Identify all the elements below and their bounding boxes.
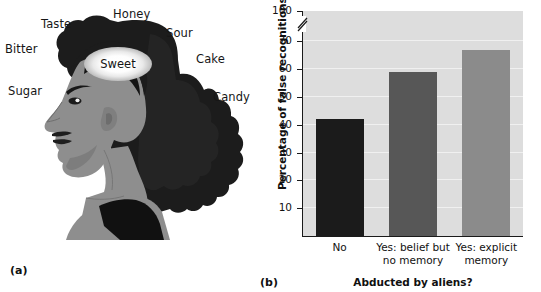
word-label-cake: Cake — [196, 52, 225, 66]
chart-y-axis-label: Percentage of false recognitions — [276, 30, 288, 190]
y-axis-break-icon — [296, 16, 310, 32]
word-label-honey: Honey — [113, 7, 150, 21]
x-category-line-2-1: memory — [442, 254, 531, 267]
sweet-word-label: Sweet — [100, 57, 135, 71]
panel-b-letter: (b) — [260, 276, 278, 289]
chart-x-axis-line — [302, 236, 523, 237]
bar-2 — [462, 50, 510, 236]
word-label-sour: Sour — [166, 26, 193, 40]
sweet-glow-highlight: Sweet — [84, 47, 152, 81]
word-label-bitter: Bitter — [5, 42, 38, 56]
bar-1 — [389, 72, 437, 236]
illustration-woman-head: Sweet Taste Honey Sour Bitter Cake Sugar… — [0, 0, 258, 258]
bar-0 — [316, 119, 364, 236]
chart-x-axis-label: Abducted by aliens? — [303, 276, 523, 288]
panel-a-letter: (a) — [10, 264, 27, 277]
gridline-70 — [303, 40, 523, 41]
x-category-line-2-0: Yes: explicit — [442, 241, 531, 254]
chart-plot-area — [303, 11, 523, 236]
chart-y-axis-line — [302, 11, 303, 237]
word-label-taste: Taste — [41, 17, 71, 31]
panel-a: Sweet Taste Honey Sour Bitter Cake Sugar… — [0, 0, 258, 292]
word-label-candy: Candy — [213, 90, 250, 104]
word-label-sugar: Sugar — [8, 84, 42, 98]
panel-b: Percentage of false recognitions 1020304… — [258, 0, 541, 292]
y-tick-label-10: 10 — [258, 201, 292, 213]
figure-container: Sweet Taste Honey Sour Bitter Cake Sugar… — [0, 0, 541, 292]
woman-profile-drawing — [0, 0, 258, 258]
x-category-label-2: Yes: explicitmemory — [442, 241, 531, 266]
